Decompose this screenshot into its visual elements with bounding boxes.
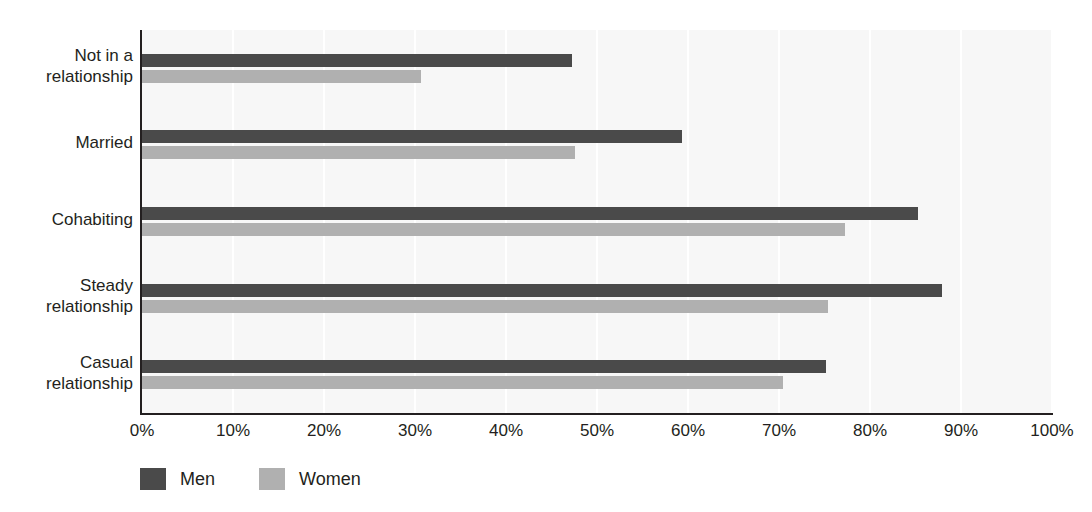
plot-area (142, 30, 1052, 413)
x-tick-40pct: 40% (489, 420, 523, 442)
bar-group (142, 360, 1052, 389)
bar-men-cohabiting (142, 207, 918, 220)
chart-title (0, 0, 1092, 10)
legend-swatch-men (140, 468, 166, 490)
bar-women-cohabiting (142, 223, 845, 236)
x-tick-70pct: 70% (762, 420, 796, 442)
y-axis-label-steady-relationship: Steadyrelationship (0, 275, 133, 317)
bar-group (142, 284, 1052, 313)
bar-men-steady-relationship (142, 284, 942, 297)
y-axis-label-casual-relationship: Casualrelationship (0, 352, 133, 394)
legend-label-men: Men (180, 468, 215, 490)
x-tick-80pct: 80% (853, 420, 887, 442)
bar-women-not-in-a-relationship (142, 70, 421, 83)
bar-group (142, 54, 1052, 83)
chart-plot-wrapper: Not in arelationshipMarriedCohabitingSte… (0, 30, 1092, 415)
legend-label-women: Women (299, 468, 361, 490)
bar-women-married (142, 146, 575, 159)
x-tick-90pct: 90% (944, 420, 978, 442)
legend-item-women[interactable]: Women (259, 468, 361, 490)
x-axis-line (140, 413, 1053, 415)
y-axis-label-not-in-a-relationship: Not in arelationship (0, 45, 133, 87)
y-axis-label-cohabiting: Cohabiting (0, 209, 133, 230)
x-tick-50pct: 50% (580, 420, 614, 442)
y-axis-label-married: Married (0, 132, 133, 153)
bar-group (142, 130, 1052, 159)
x-tick-100pct: 100% (1030, 420, 1073, 442)
x-axis-tick-labels: 0%10%20%30%40%50%60%70%80%90%100% (0, 420, 1092, 444)
bar-men-not-in-a-relationship (142, 54, 572, 67)
x-tick-30pct: 30% (398, 420, 432, 442)
chart-legend: MenWomen (140, 462, 405, 496)
bar-men-married (142, 130, 682, 143)
y-axis-line (140, 30, 142, 415)
x-tick-60pct: 60% (671, 420, 705, 442)
x-tick-10pct: 10% (216, 420, 250, 442)
bar-men-casual-relationship (142, 360, 826, 373)
x-tick-0pct: 0% (130, 420, 155, 442)
bar-women-steady-relationship (142, 300, 828, 313)
legend-item-men[interactable]: Men (140, 468, 215, 490)
y-axis-category-labels: Not in arelationshipMarriedCohabitingSte… (0, 30, 133, 415)
bar-women-casual-relationship (142, 376, 783, 389)
bar-group (142, 207, 1052, 236)
legend-swatch-women (259, 468, 285, 490)
x-tick-20pct: 20% (307, 420, 341, 442)
